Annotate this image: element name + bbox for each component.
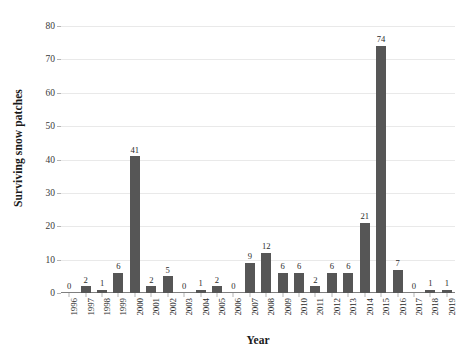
x-tick-label-text: 2016	[398, 298, 408, 316]
bar-group: 61999	[110, 26, 126, 293]
plot-area: 01020304050607080 0199621997119986199941…	[61, 26, 455, 293]
bar-group: 12018	[422, 26, 438, 293]
bar[interactable]	[310, 286, 320, 293]
x-tick-label: 2018	[430, 293, 440, 327]
x-tick-label-text: 2008	[266, 298, 276, 316]
bar[interactable]	[327, 273, 337, 293]
bar-value-label: 1	[198, 279, 202, 288]
y-axis-title-text: Surviving snow patches	[12, 89, 24, 207]
x-tick-label-text: 1997	[86, 298, 96, 316]
x-tick-label-text: 2018	[430, 298, 440, 316]
bar-value-label: 6	[297, 262, 301, 271]
x-tick-label-text: 1999	[118, 298, 128, 316]
x-tick-label-text: 2002	[168, 298, 178, 316]
bar-group: 62013	[340, 26, 356, 293]
x-tick-label-text: 2005	[217, 298, 227, 316]
x-tick-label-text: 2019	[447, 298, 457, 316]
y-tick-label: 80	[46, 21, 56, 31]
bar[interactable]	[261, 253, 271, 293]
x-tick-label: 2006	[233, 293, 243, 327]
bar-group: 412000	[127, 26, 143, 293]
bar-value-label: 12	[262, 242, 271, 251]
bar-value-label: 2	[313, 276, 317, 285]
bar-group: 62010	[291, 26, 307, 293]
y-axis-title: Surviving snow patches	[8, 0, 28, 295]
x-tick-label: 2017	[414, 293, 424, 327]
x-tick-label-text: 2003	[184, 298, 194, 316]
x-tick-label: 1998	[102, 293, 112, 327]
bar[interactable]	[376, 46, 386, 293]
x-tick-label: 1997	[86, 293, 96, 327]
x-tick-label: 2001	[151, 293, 161, 327]
bar-group: 22001	[143, 26, 159, 293]
bar-group: 72016	[389, 26, 405, 293]
x-tick-label: 2007	[250, 293, 260, 327]
bar[interactable]	[278, 273, 288, 293]
x-tick-label-text: 2010	[299, 298, 309, 316]
y-tick-mark	[57, 293, 61, 294]
x-tick-label-text: 2017	[414, 298, 424, 316]
bar-value-label: 1	[445, 279, 449, 288]
bar-value-label: 1	[100, 279, 104, 288]
x-tick-label: 2003	[184, 293, 194, 327]
x-tick-label-text: 2007	[250, 298, 260, 316]
x-tick-label: 2002	[168, 293, 178, 327]
bar-value-label: 0	[412, 282, 416, 291]
x-tick-label-text: 2009	[283, 298, 293, 316]
bar-group: 12019	[439, 26, 455, 293]
bar[interactable]	[146, 286, 156, 293]
bar-group: 92007	[242, 26, 258, 293]
bar-group: 12004	[192, 26, 208, 293]
bar-value-label: 1	[428, 279, 432, 288]
x-axis-title: Year	[61, 334, 455, 346]
x-tick-label: 2010	[299, 293, 309, 327]
bar[interactable]	[393, 270, 403, 293]
bar[interactable]	[294, 273, 304, 293]
bar[interactable]	[113, 273, 123, 293]
x-tick-label: 2019	[447, 293, 457, 327]
bar-value-label: 0	[67, 282, 71, 291]
bar-group: 62012	[324, 26, 340, 293]
x-tick-label: 2004	[201, 293, 211, 327]
bar[interactable]	[163, 276, 173, 293]
x-tick-label-text: 2013	[348, 298, 358, 316]
x-tick-label-text: 1998	[102, 298, 112, 316]
x-tick-label: 1999	[118, 293, 128, 327]
bar-group: 52002	[160, 26, 176, 293]
y-tick-label: 10	[46, 255, 56, 265]
bar-value-label: 21	[360, 212, 369, 221]
y-tick-label: 70	[46, 54, 56, 64]
bar[interactable]	[343, 273, 353, 293]
bar-group: 22005	[209, 26, 225, 293]
bar-value-label: 6	[116, 262, 120, 271]
bar[interactable]	[245, 263, 255, 293]
x-tick-label: 2013	[348, 293, 358, 327]
bar-value-label: 74	[377, 35, 386, 44]
y-tick-label: 40	[46, 155, 56, 165]
x-tick-label: 2016	[398, 293, 408, 327]
bar-value-label: 2	[149, 276, 153, 285]
bar-group: 22011	[307, 26, 323, 293]
y-tick-label: 50	[46, 121, 56, 131]
x-tick-label: 2008	[266, 293, 276, 327]
bar[interactable]	[81, 286, 91, 293]
bar-value-label: 5	[166, 266, 170, 275]
bar-group: 122008	[258, 26, 274, 293]
x-tick-label: 2011	[315, 293, 325, 327]
bar-value-label: 2	[83, 276, 87, 285]
bar-value-label: 7	[395, 259, 399, 268]
bar-value-label: 6	[330, 262, 334, 271]
bar-group: 01996	[61, 26, 77, 293]
x-tick-label: 2000	[135, 293, 145, 327]
x-tick-label-text: 2001	[151, 298, 161, 316]
y-tick-label: 0	[50, 288, 55, 298]
x-tick-label: 2014	[365, 293, 375, 327]
bar-value-label: 6	[280, 262, 284, 271]
bar[interactable]	[360, 223, 370, 293]
y-tick-label: 60	[46, 88, 56, 98]
bar[interactable]	[212, 286, 222, 293]
x-tick-label-text: 2004	[201, 298, 211, 316]
x-tick-label: 2015	[381, 293, 391, 327]
bar[interactable]	[130, 156, 140, 293]
bar-group: 11998	[94, 26, 110, 293]
